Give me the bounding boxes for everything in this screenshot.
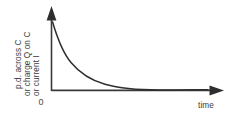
y-axis-label: p.d. across C or charge Q on C or curren…	[14, 32, 41, 96]
y-axis-label-line-3: or current I	[32, 55, 41, 96]
x-axis-arrowhead-icon	[210, 85, 225, 95]
graph-canvas: p.d. across C or charge Q on C or curren…	[0, 0, 235, 113]
x-axis-label: time	[198, 101, 214, 110]
capacitor-discharge-figure: p.d. across C or charge Q on C or curren…	[0, 0, 235, 113]
exponential-decay-curve	[53, 22, 208, 90]
origin-label: 0	[38, 97, 43, 107]
y-axis-label-line-1: p.d. across C	[14, 39, 23, 89]
y-axis-arrowhead-icon	[47, 6, 57, 21]
y-axis-label-line-2: or charge Q on C	[23, 32, 32, 96]
